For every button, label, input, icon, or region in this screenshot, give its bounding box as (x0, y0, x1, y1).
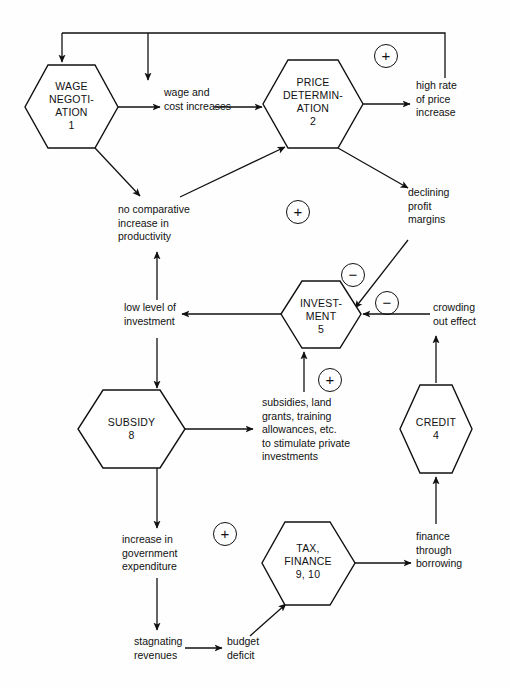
polarity-plus-middle: + (286, 200, 310, 224)
node-investment-line1: INVEST- (300, 297, 343, 309)
annotation-subsidies-list: subsidies, land grants, training allowan… (262, 396, 350, 464)
annotation-crowding-out: crowding out effect (433, 301, 476, 328)
node-credit-line2: 4 (433, 429, 439, 441)
annotation-budget-deficit: budget deficit (227, 635, 259, 662)
causal-loop-diagram: WAGE NEGOTI- ATION 1 PRICE DETERMIN- ATI… (0, 0, 510, 688)
polarity-plus-top: + (374, 44, 398, 68)
polarity-minus-profit: − (341, 263, 365, 287)
annotation-declining-profit: declining profit margins (408, 186, 449, 227)
node-tax-finance-line2: FINANCE (284, 555, 332, 567)
annotation-stagnating-revenues: stagnating revenues (134, 635, 182, 662)
node-investment-line3: 5 (318, 323, 324, 335)
annotation-finance-borrowing: finance through borrowing (416, 530, 462, 571)
node-subsidy-line2: 8 (128, 429, 134, 441)
link-budgetdeficit-to-tax (250, 604, 286, 636)
link-wage-to-nocomparative (95, 148, 140, 196)
node-subsidy-line1: SUBSIDY (108, 416, 156, 428)
node-wage-negotiation-line3: ATION (55, 106, 87, 118)
polarity-plus-subsidies: + (318, 368, 342, 392)
annotation-wage-cost-increases: wage and cost increases (164, 86, 231, 113)
node-wage-negotiation-line4: 1 (68, 119, 74, 131)
node-credit-line1: CREDIT (416, 416, 457, 428)
node-investment-line2: MENT (306, 310, 337, 322)
polarity-minus-crowding: − (375, 291, 399, 315)
node-wage-negotiation-line1: WAGE (55, 80, 88, 92)
annotation-high-rate-price: high rate of price increase (416, 79, 457, 120)
node-price-determination-line4: 2 (310, 115, 316, 127)
annotation-increase-gov-exp: increase in government expenditure (122, 533, 177, 574)
node-price-determination-line3: ATION (297, 102, 329, 114)
node-wage-negotiation-line2: NEGOTI- (49, 93, 94, 105)
node-tax-finance-line1: TAX, (296, 542, 319, 554)
link-price-to-declining (338, 148, 408, 188)
node-price-determination-line2: DETERMIN- (283, 89, 343, 101)
polarity-plus-bottom: + (213, 522, 237, 546)
annotation-no-comparative: no comparative increase in productivity (118, 203, 190, 244)
link-nocomparative-to-price (180, 147, 285, 197)
node-tax-finance-line3: 9, 10 (296, 568, 320, 580)
annotation-low-level-investment: low level of investment (124, 301, 176, 328)
node-price-determination-line1: PRICE (296, 76, 329, 88)
